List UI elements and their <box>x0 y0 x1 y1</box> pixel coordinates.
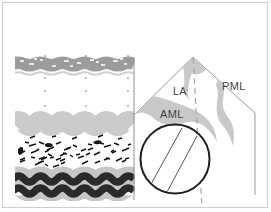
mmode-strip <box>13 55 134 194</box>
aml-label: AML <box>160 108 184 120</box>
figure-svg: LA AML PML <box>0 0 271 212</box>
pml-label: PML <box>222 80 246 92</box>
echocardiogram-figure: LA AML PML <box>0 0 271 212</box>
la-label: LA <box>173 85 187 97</box>
mmode-valve-speckles <box>18 135 131 167</box>
mmode-septum-band <box>13 121 134 127</box>
mmode-chest-wall-underline <box>13 72 134 75</box>
orifice-circle <box>141 125 210 194</box>
